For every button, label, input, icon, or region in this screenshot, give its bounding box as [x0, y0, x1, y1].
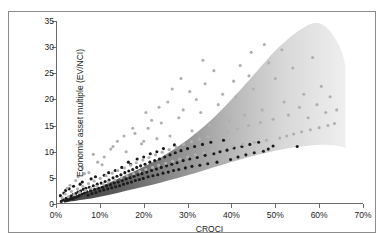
x-tick-mark [319, 204, 320, 208]
y-tick-label: 30 [14, 42, 54, 52]
x-tick-label: 20% [135, 210, 152, 220]
shaded-band [56, 21, 363, 204]
x-tick-mark [144, 204, 145, 208]
y-tick-label: 15 [14, 121, 54, 131]
x-tick-label: 70% [354, 210, 371, 220]
x-axis-title: CROCI [196, 224, 223, 234]
x-tick-label: 10% [91, 210, 108, 220]
x-tick-mark [275, 204, 276, 208]
y-tick-label: 0 [14, 199, 54, 209]
x-axis-line [56, 203, 363, 204]
x-tick-label: 50% [267, 210, 284, 220]
y-tick-label: 10 [14, 147, 54, 157]
x-tick-label: 40% [223, 210, 240, 220]
x-tick-mark [363, 204, 364, 208]
x-tick-label: 60% [311, 210, 328, 220]
x-tick-mark [56, 204, 57, 208]
x-tick-label: 0% [50, 210, 62, 220]
y-tick-label: 25 [14, 68, 54, 78]
y-tick-label: 35 [14, 16, 54, 26]
scatter-plot-area: 05101520253035 0%10%20%30%40%50%60%70% E… [56, 21, 363, 204]
x-tick-mark [100, 204, 101, 208]
x-tick-mark [188, 204, 189, 208]
y-axis-title: Economic asset multiple (EV/NCI) [75, 48, 85, 176]
y-tick-label: 20 [14, 94, 54, 104]
x-tick-label: 30% [179, 210, 196, 220]
y-axis-line [56, 21, 57, 204]
chart-figure-frame: 05101520253035 0%10%20%30%40%50%60%70% E… [8, 11, 376, 233]
y-tick-label: 5 [14, 173, 54, 183]
x-tick-mark [231, 204, 232, 208]
